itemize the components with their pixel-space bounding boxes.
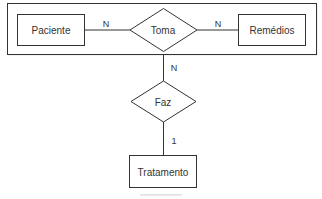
entity-tratamento-label: Tratamento	[138, 167, 189, 178]
cardinality-faz-tratamento: 1	[171, 136, 176, 146]
faint-footer-bar	[140, 194, 182, 196]
entity-paciente-label: Paciente	[32, 25, 71, 36]
cardinality-paciente-toma: N	[103, 19, 110, 29]
cardinality-toma-remedios: N	[215, 19, 222, 29]
entity-remedios-label: Remédios	[249, 25, 294, 36]
relationship-toma-label: Toma	[151, 25, 175, 36]
relationship-faz-label: Faz	[155, 97, 172, 108]
cardinality-aggregation-faz: N	[171, 63, 178, 73]
